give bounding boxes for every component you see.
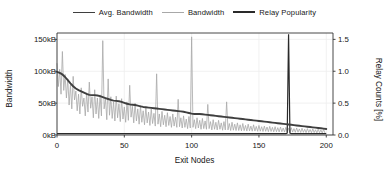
series-line-bandwidth: [57, 37, 325, 133]
grid-lines: [57, 33, 333, 135]
plot-area: [0, 0, 389, 177]
chart-figure: Avg. BandwidthBandwidthRelay Popularity …: [0, 0, 389, 177]
